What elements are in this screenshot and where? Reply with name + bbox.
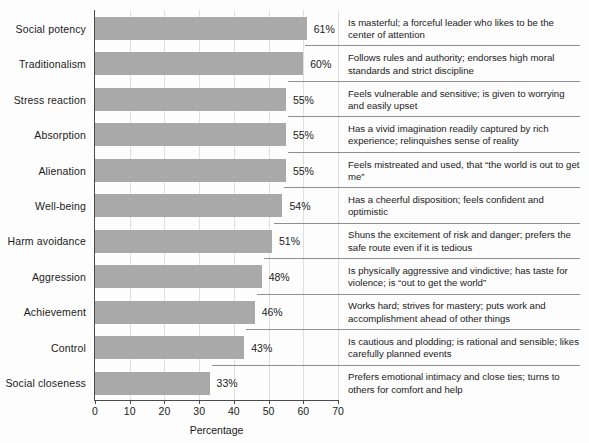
- trait-description: Has a cheerful disposition; feels confid…: [348, 194, 580, 219]
- chart-row: Harm avoidance51%Shuns the excitement of…: [0, 224, 589, 259]
- bar: [95, 194, 282, 217]
- chart-plot-area: Social potency61%Is masterful; a forcefu…: [0, 0, 589, 402]
- chart-row: Traditionalism60%Follows rules and autho…: [0, 46, 589, 81]
- category-label: Social potency: [0, 23, 86, 35]
- chart-row: Alienation55%Feels mistreated and used, …: [0, 153, 589, 188]
- y-axis-line: [94, 10, 95, 401]
- x-tick-30: [199, 400, 200, 404]
- x-tick-0: [95, 400, 96, 404]
- x-tick-70: [338, 400, 339, 404]
- bar: [95, 88, 286, 111]
- chart-row: Control43%Is cautious and plodding; is r…: [0, 330, 589, 365]
- category-label: Harm avoidance: [0, 235, 86, 247]
- chart-row: Achievement46%Works hard; strives for ma…: [0, 295, 589, 330]
- x-tick-label: 70: [332, 405, 344, 417]
- trait-description: Is cautious and plodding; is rational an…: [348, 335, 580, 360]
- bar: [95, 301, 255, 324]
- chart-row: Absorption55%Has a vivid imagination rea…: [0, 117, 589, 152]
- category-label: Stress reaction: [0, 94, 86, 106]
- bar: [95, 123, 286, 146]
- chart-row: Well-being54%Has a cheerful disposition;…: [0, 188, 589, 223]
- trait-description: Feels vulnerable and sensitive; is given…: [348, 87, 580, 112]
- category-label: Aggression: [0, 271, 86, 283]
- x-tick-label: 40: [228, 405, 240, 417]
- x-tick-label: 60: [297, 405, 309, 417]
- bar: [95, 230, 272, 253]
- category-label: Achievement: [0, 306, 86, 318]
- bar-track: [95, 123, 286, 146]
- trait-description: Shuns the excitement of risk and danger;…: [348, 229, 580, 254]
- bar-value-label: 51%: [279, 235, 300, 247]
- row-separator: [288, 152, 580, 153]
- bar-value-label: 46%: [262, 306, 283, 318]
- bar-track: [95, 336, 244, 359]
- bar: [95, 336, 244, 359]
- category-label: Absorption: [0, 129, 86, 141]
- x-tick-label: 50: [263, 405, 275, 417]
- bar-value-label: 55%: [293, 94, 314, 106]
- bar-track: [95, 230, 272, 253]
- x-tick-50: [269, 400, 270, 404]
- bar-value-label: 61%: [314, 23, 335, 35]
- row-separator: [284, 187, 580, 188]
- bar-track: [95, 265, 262, 288]
- chart-figure: Social potency61%Is masterful; a forcefu…: [0, 0, 589, 443]
- bar-track: [95, 159, 286, 182]
- trait-description: Prefers emotional intimacy and close tie…: [348, 371, 580, 396]
- bar-value-label: 55%: [293, 165, 314, 177]
- bar: [95, 17, 307, 40]
- category-label: Alienation: [0, 165, 86, 177]
- x-tick-10: [130, 400, 131, 404]
- bar-value-label: 48%: [269, 271, 290, 283]
- trait-description: Has a vivid imagination readily captured…: [348, 123, 580, 148]
- bar-track: [95, 372, 210, 395]
- row-separator: [212, 365, 580, 366]
- x-tick-label: 30: [193, 405, 205, 417]
- bar-track: [95, 52, 303, 75]
- bar-value-label: 60%: [310, 58, 331, 70]
- bar-track: [95, 194, 282, 217]
- x-tick-label: 10: [124, 405, 136, 417]
- bar: [95, 52, 303, 75]
- category-label: Control: [0, 342, 86, 354]
- bar: [95, 265, 262, 288]
- row-separator: [257, 294, 580, 295]
- row-separator: [288, 116, 580, 117]
- x-axis-title: Percentage: [94, 424, 339, 436]
- bar-track: [95, 301, 255, 324]
- trait-description: Follows rules and authority; endorses hi…: [348, 52, 580, 77]
- x-tick-label: 20: [159, 405, 171, 417]
- row-separator: [264, 258, 580, 259]
- x-tick-40: [234, 400, 235, 404]
- category-label: Traditionalism: [0, 58, 86, 70]
- row-separator: [288, 81, 580, 82]
- x-tick-label: 0: [92, 405, 98, 417]
- row-separator: [246, 329, 580, 330]
- x-axis-line: [94, 400, 339, 401]
- bar-track: [95, 17, 307, 40]
- chart-row: Social closeness33%Prefers emotional int…: [0, 366, 589, 401]
- category-label: Social closeness: [0, 377, 86, 389]
- bar: [95, 372, 210, 395]
- chart-row: Aggression48%Is physically aggressive an…: [0, 259, 589, 294]
- bar-value-label: 54%: [289, 200, 310, 212]
- trait-description: Is physically aggressive and vindictive;…: [348, 264, 580, 289]
- row-separator: [274, 223, 580, 224]
- bar-track: [95, 88, 286, 111]
- chart-row: Social potency61%Is masterful; a forcefu…: [0, 11, 589, 46]
- x-tick-20: [164, 400, 165, 404]
- x-tick-60: [303, 400, 304, 404]
- bar-value-label: 55%: [293, 129, 314, 141]
- row-separator: [305, 45, 580, 46]
- trait-description: Feels mistreated and used, that “the wor…: [348, 158, 580, 183]
- bar: [95, 159, 286, 182]
- trait-description: Works hard; strives for mastery; puts wo…: [348, 300, 580, 325]
- category-label: Well-being: [0, 200, 86, 212]
- trait-description: Is masterful; a forceful leader who like…: [348, 16, 580, 41]
- bar-value-label: 33%: [217, 377, 238, 389]
- chart-row: Stress reaction55%Feels vulnerable and s…: [0, 82, 589, 117]
- bar-value-label: 43%: [251, 342, 272, 354]
